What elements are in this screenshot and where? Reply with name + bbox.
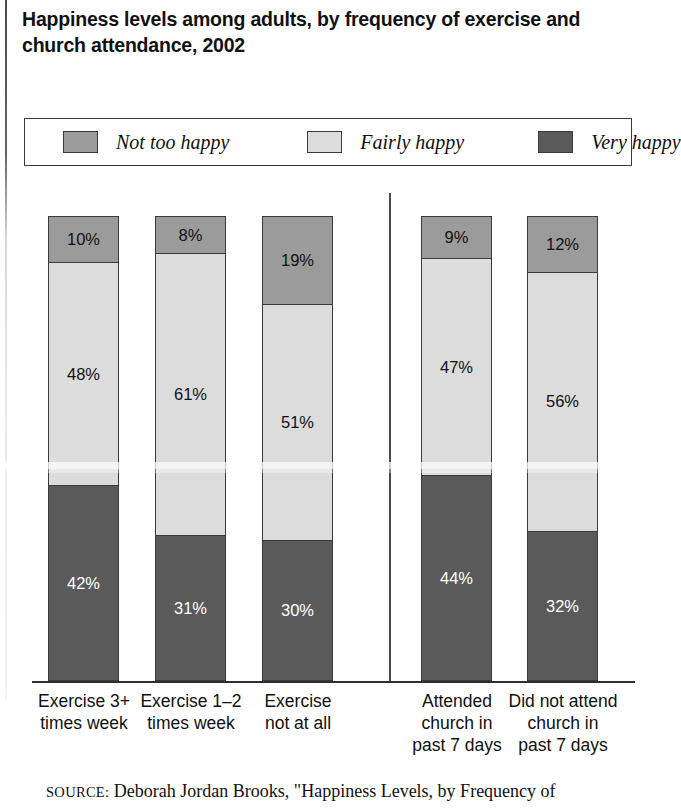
bar-segment-value: 12%: [546, 236, 579, 253]
category-label-did-not-attend-church: Did not attend church in past 7 days: [499, 690, 627, 756]
bar-segment-fairly-happy: 47%: [422, 259, 491, 477]
bar-segment-not-too-happy: 19%: [263, 217, 332, 305]
bar-segment-value: 56%: [546, 393, 579, 410]
bar-segment-very-happy: 31%: [156, 536, 225, 680]
bar-segment-not-too-happy: 12%: [528, 217, 597, 273]
chart-baseline-axis: [32, 681, 635, 683]
bar-segment-not-too-happy: 8%: [156, 217, 225, 254]
bar-segment-value: 9%: [445, 229, 469, 246]
bar-segment-not-too-happy: 9%: [422, 217, 491, 259]
bar-segment-fairly-happy: 61%: [156, 254, 225, 536]
bar-segment-value: 32%: [546, 598, 579, 615]
bar-segment-value: 31%: [174, 600, 207, 617]
bar-segment-value: 47%: [440, 359, 473, 376]
bar-segment-very-happy: 42%: [49, 486, 118, 680]
bar-segment-very-happy: 44%: [422, 476, 491, 680]
bar-segment-value: 8%: [179, 227, 203, 244]
bar-segment-value: 61%: [174, 386, 207, 403]
category-label-exercise-not-at-all: Exercise not at all: [234, 690, 362, 734]
bar-segment-very-happy: 30%: [263, 541, 332, 680]
stacked-bar-attended-church: 9% 47% 44%: [421, 216, 492, 681]
stacked-bar-exercise-3-plus: 10% 48% 42%: [48, 216, 119, 681]
category-label-line: Exercise: [234, 690, 362, 712]
category-label-line: Did not attend: [499, 690, 627, 712]
stacked-bar-did-not-attend-church: 12% 56% 32%: [527, 216, 598, 681]
stacked-bar-exercise-not-at-all: 19% 51% 30%: [262, 216, 333, 681]
group-divider: [389, 193, 391, 682]
bar-segment-very-happy: 32%: [528, 532, 597, 680]
bar-segment-value: 30%: [281, 602, 314, 619]
stacked-bar-exercise-1-2: 8% 61% 31%: [155, 216, 226, 681]
source-prefix: SOURCE:: [46, 784, 109, 800]
source-text: Deborah Jordan Brooks, "Happiness Levels…: [114, 781, 556, 801]
category-label-line: church in: [499, 712, 627, 734]
bar-segment-value: 48%: [67, 366, 100, 383]
bar-segment-value: 10%: [67, 231, 100, 248]
bar-segment-fairly-happy: 51%: [263, 305, 332, 541]
bar-segment-fairly-happy: 48%: [49, 263, 118, 485]
bar-segment-value: 51%: [281, 414, 314, 431]
bar-segment-not-too-happy: 10%: [49, 217, 118, 263]
bar-segment-value: 44%: [440, 570, 473, 587]
source-note: SOURCE: Deborah Jordan Brooks, "Happines…: [46, 780, 646, 803]
bar-segment-value: 42%: [67, 575, 100, 592]
bar-segment-value: 19%: [281, 252, 314, 269]
bar-segment-fairly-happy: 56%: [528, 273, 597, 532]
category-label-line: past 7 days: [499, 734, 627, 756]
category-label-line: not at all: [234, 712, 362, 734]
